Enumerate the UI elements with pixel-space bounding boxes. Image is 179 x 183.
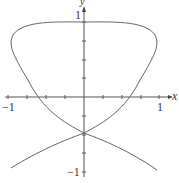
y-tick-label-neg1: −1 [67,165,80,180]
x-axis-label: x [172,89,177,104]
x-tick-label-neg1: −1 [2,100,15,115]
chart: y x −1 1 1 −1 [0,0,179,183]
y-tick-label-1: 1 [75,8,81,23]
y-axis-label: y [80,0,84,7]
x-tick-label-1: 1 [157,100,163,115]
plot-area [0,0,179,183]
